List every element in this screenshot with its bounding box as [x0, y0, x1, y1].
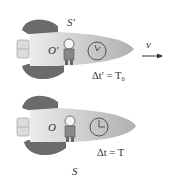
equation-top: Δt′ = T₀ — [92, 70, 125, 81]
velocity-arrow-icon — [142, 54, 163, 59]
time-dilation-diagram: O′ S′ v Δt′ = T₀ O Δt = T S — [0, 0, 175, 186]
top-fin-upper — [22, 20, 58, 34]
top-hull — [30, 32, 134, 66]
bottom-fin-lower — [24, 140, 66, 155]
frame-label-top: S′ — [67, 16, 76, 28]
observer-label-bottom: O — [48, 121, 56, 133]
bottom-fin-upper — [22, 96, 58, 110]
equation-bottom: Δt = T — [97, 147, 125, 158]
bottom-hull — [30, 108, 136, 142]
velocity-label: v — [146, 38, 151, 50]
top-fin-lower — [22, 64, 64, 79]
observer-label-top: O′ — [48, 44, 59, 56]
frame-label-bottom: S — [72, 165, 78, 177]
